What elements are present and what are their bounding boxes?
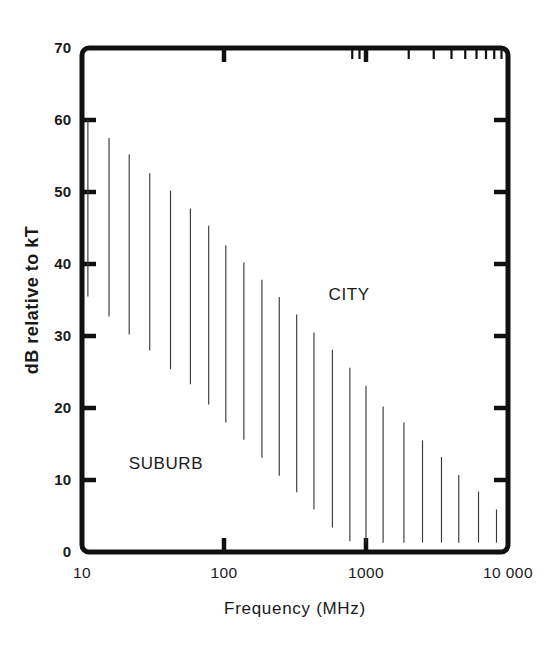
y-tick-label-60: 60 (54, 111, 71, 128)
x-axis-title: Frequency (MHz) (224, 599, 366, 618)
x-axis-ticks-top (224, 50, 502, 62)
y-tick-label-70: 70 (54, 39, 71, 56)
city-region-label: CITY (329, 285, 370, 304)
x-tick-label-1000: 1000 (348, 564, 384, 581)
y-tick-label-50: 50 (54, 183, 71, 200)
suburb-region-label: SUBURB (129, 454, 203, 473)
x-tick-label-100: 100 (210, 564, 237, 581)
region-annotations: CITYSUBURB (129, 285, 370, 473)
chart-svg: 010203040506070 10100100010 000 CITYSUBU… (0, 0, 553, 648)
y-tick-label-20: 20 (54, 399, 71, 416)
x-axis-tick-labels: 10100100010 000 (73, 564, 533, 581)
x-axis-ticks-bottom (224, 538, 366, 550)
plot-frame (82, 48, 508, 552)
y-axis-ticks-right (494, 120, 506, 480)
y-axis-ticks-left (84, 120, 96, 480)
x-tick-label-10: 10 (73, 564, 91, 581)
x-tick-label-10000: 10 000 (483, 564, 533, 581)
y-tick-label-30: 30 (54, 327, 71, 344)
range-bar-series (88, 120, 497, 543)
y-tick-label-10: 10 (54, 471, 71, 488)
y-axis-tick-labels: 010203040506070 (54, 39, 71, 560)
y-tick-label-40: 40 (54, 255, 71, 272)
y-axis-title: dB relative to kT (22, 226, 42, 375)
noise-level-chart-figure: 010203040506070 10100100010 000 CITYSUBU… (0, 0, 553, 648)
y-tick-label-0: 0 (63, 543, 71, 560)
